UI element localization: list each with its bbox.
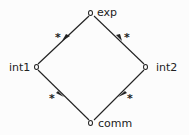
node-comm-marker: [88, 120, 93, 126]
edge-label-exp-int1: *: [55, 32, 61, 43]
node-int1-label: int1: [9, 62, 30, 73]
node-int1-marker: [34, 64, 39, 70]
edge-int2-comm: [94, 70, 144, 120]
edge-int1-comm: [38, 70, 89, 120]
node-int2-marker: [143, 64, 148, 70]
node-exp-marker: [88, 10, 93, 16]
edge-label-int1-comm: *: [49, 93, 55, 104]
edge-label-int2-comm: *: [127, 93, 133, 104]
node-int2-label: int2: [156, 62, 177, 73]
node-comm-label: comm: [98, 118, 132, 129]
edge-label-exp-int2: *: [124, 32, 130, 43]
node-exp-label: exp: [97, 7, 117, 18]
edge-exp-int2: [94, 16, 144, 64]
